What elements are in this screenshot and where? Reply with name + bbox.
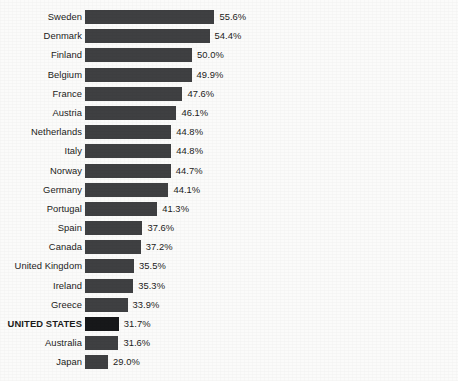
bar-row: Sweden55.6% [0,10,458,29]
category-label: UNITED STATES [8,317,82,331]
value-label: 31.7% [124,317,151,331]
value-label: 33.9% [133,298,160,312]
bar-row: Portugal41.3% [0,202,458,221]
bar-row: Austria46.1% [0,106,458,125]
bar-row: France47.6% [0,87,458,106]
bar [85,125,171,139]
category-label: Japan [56,355,82,369]
bar-row: Netherlands44.8% [0,125,458,144]
value-label: 35.3% [138,279,165,293]
value-label: 49.9% [197,68,224,82]
bar-row: Denmark54.4% [0,29,458,48]
value-label: 44.7% [176,164,203,178]
value-label: 31.6% [123,336,150,350]
category-label: Canada [49,240,82,254]
value-label: 54.4% [215,29,242,43]
category-label: Sweden [48,10,82,24]
value-label: 44.8% [176,144,203,158]
bar [85,336,118,350]
category-label: Spain [58,221,82,235]
category-label: Italy [65,144,82,158]
bar-row: Germany44.1% [0,183,458,202]
bar [85,355,108,369]
category-label: Denmark [44,29,82,43]
bar-row: United Kingdom35.5% [0,259,458,278]
bar [85,183,168,197]
category-label: Belgium [48,68,82,82]
bar [85,48,192,62]
bar-row: Spain37.6% [0,221,458,240]
bar [85,164,171,178]
bar-row: Finland50.0% [0,48,458,67]
value-label: 37.2% [146,240,173,254]
category-label: Germany [43,183,82,197]
bar-row: Belgium49.9% [0,68,458,87]
bar-row: Japan29.0% [0,355,458,374]
bar-row: Canada37.2% [0,240,458,259]
bar [85,221,142,235]
bar [85,240,141,254]
category-label: Portugal [47,202,82,216]
category-label: Greece [51,298,82,312]
category-label: United Kingdom [15,259,82,273]
bar [85,259,134,273]
bar [85,202,157,216]
category-label: Austria [52,106,82,120]
value-label: 55.6% [219,10,246,24]
value-label: 44.8% [176,125,203,139]
bar [85,68,192,82]
bar [85,298,128,312]
bar-row: Ireland35.3% [0,279,458,298]
bar [85,29,210,43]
category-label: Ireland [53,279,82,293]
bar-row: Norway44.7% [0,164,458,183]
category-label: Finland [51,48,82,62]
bar-row: UNITED STATES31.7% [0,317,458,336]
value-label: 44.1% [173,183,200,197]
bar [85,106,176,120]
value-label: 29.0% [113,355,140,369]
category-label: Norway [50,164,82,178]
value-label: 47.6% [187,87,214,101]
category-label: France [53,87,82,101]
bar-chart: Sweden55.6%Denmark54.4%Finland50.0%Belgi… [0,0,458,381]
value-label: 41.3% [162,202,189,216]
value-label: 37.6% [147,221,174,235]
bar [85,317,119,331]
bar [85,279,133,293]
value-label: 35.5% [139,259,166,273]
bar-row: Australia31.6% [0,336,458,355]
value-label: 46.1% [181,106,208,120]
bar [85,87,182,101]
bar [85,144,171,158]
bar-row: Greece33.9% [0,298,458,317]
category-label: Netherlands [31,125,82,139]
value-label: 50.0% [197,48,224,62]
category-label: Australia [45,336,82,350]
bar-row: Italy44.8% [0,144,458,163]
bar-chart-rows: Sweden55.6%Denmark54.4%Finland50.0%Belgi… [0,10,458,375]
bar [85,10,214,24]
